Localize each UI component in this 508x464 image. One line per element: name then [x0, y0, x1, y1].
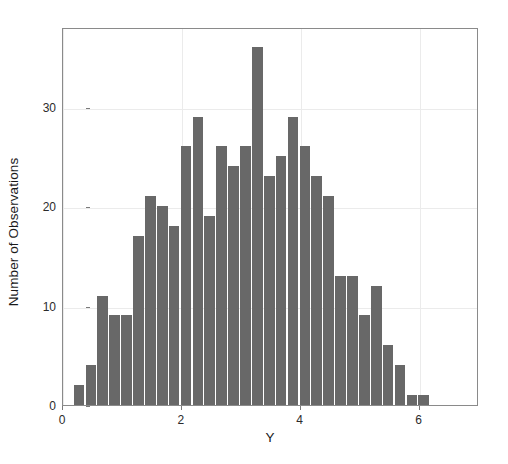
histogram-figure: Number of Observations 0102030 0246 Y	[0, 0, 508, 464]
x-tick-label: 2	[178, 413, 185, 427]
x-tick-mark	[300, 406, 301, 410]
x-tick-label: 0	[59, 413, 66, 427]
x-axis-ticks: 0246	[0, 0, 508, 464]
x-tick-mark	[181, 406, 182, 410]
x-axis-title: Y	[62, 430, 478, 445]
x-tick-mark	[62, 406, 63, 410]
x-tick-mark	[419, 406, 420, 410]
x-tick-label: 4	[296, 413, 303, 427]
x-tick-label: 6	[415, 413, 422, 427]
